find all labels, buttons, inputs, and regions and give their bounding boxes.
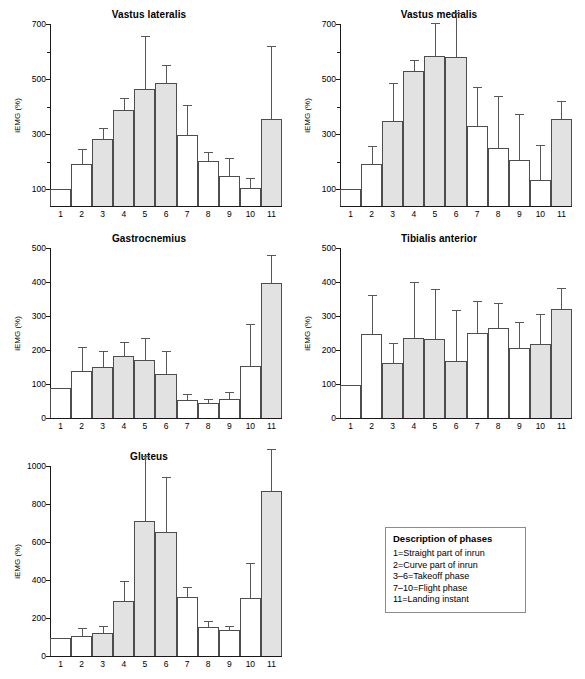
y-axis-tick-label: 600 <box>32 538 46 546</box>
y-axis-tick-label: 700 <box>322 20 336 28</box>
y-axis-tick-label: 400 <box>32 278 46 286</box>
x-axis-tick-label: 5 <box>143 421 148 431</box>
y-axis-tick-label: 100 <box>322 185 336 193</box>
plot-area <box>340 248 572 418</box>
x-axis-line <box>50 418 282 419</box>
x-axis-tick-label: 2 <box>369 421 374 431</box>
x-axis-tick-label: 10 <box>246 209 255 219</box>
error-bar <box>372 295 373 334</box>
error-bar <box>561 288 562 309</box>
legend-item: 1=Straight part of inrun <box>393 548 518 560</box>
bar <box>50 638 71 656</box>
error-bar-cap <box>78 347 87 348</box>
y-axis-minor-tick-mark <box>47 52 50 53</box>
error-bar-cap <box>473 301 482 302</box>
x-axis-tick-label: 5 <box>433 209 438 219</box>
x-axis-tick-label: 10 <box>536 209 545 219</box>
y-axis-minor-tick-mark <box>47 162 50 163</box>
y-axis-tick-mark <box>336 418 340 419</box>
error-bar-cap <box>536 314 545 315</box>
bar <box>113 110 134 206</box>
y-axis-tick-mark <box>336 350 340 351</box>
error-bar-cap <box>557 288 566 289</box>
y-axis-tick-mark <box>46 466 50 467</box>
y-axis-tick-labels: 100300500700 <box>20 24 46 206</box>
y-axis-tick-label: 300 <box>322 312 336 320</box>
bar <box>488 328 509 418</box>
error-bar <box>393 343 394 363</box>
bar <box>261 283 282 418</box>
error-bar-cap <box>515 114 524 115</box>
x-axis-tick-label: 8 <box>206 659 211 669</box>
error-bar <box>187 587 188 597</box>
error-bar <box>187 105 188 136</box>
error-bar <box>456 13 457 57</box>
y-axis-tick-label: 400 <box>322 278 336 286</box>
error-bar <box>82 149 83 164</box>
error-bar-cap <box>141 456 150 457</box>
y-axis-tick-mark <box>46 384 50 385</box>
x-axis-tick-label: 6 <box>454 209 459 219</box>
x-axis-tick-label: 6 <box>164 421 169 431</box>
bar <box>134 360 155 418</box>
x-axis-tick-label: 8 <box>206 421 211 431</box>
error-bar-cap <box>452 13 461 14</box>
x-axis-tick-label: 4 <box>121 209 126 219</box>
x-axis-tick-label: 1 <box>348 421 353 431</box>
error-bar <box>124 581 125 601</box>
y-axis-minor-tick-mark <box>337 107 340 108</box>
error-bar <box>103 351 104 367</box>
bar <box>50 388 71 418</box>
y-axis-minor-tick-mark <box>337 52 340 53</box>
error-bar-cap <box>431 289 440 290</box>
bar <box>219 399 240 418</box>
y-axis-tick-mark <box>46 504 50 505</box>
error-bar <box>250 178 251 188</box>
x-axis-tick-label: 3 <box>390 421 395 431</box>
plot-area <box>50 248 282 418</box>
x-axis-tick-label: 9 <box>517 209 522 219</box>
bar <box>219 630 240 656</box>
y-axis-line <box>50 466 51 656</box>
x-axis-tick-label: 1 <box>58 421 63 431</box>
error-bar <box>561 101 562 119</box>
x-axis-tick-label: 2 <box>369 209 374 219</box>
plot-area <box>50 24 282 206</box>
error-bar <box>372 146 373 164</box>
y-axis-tick-label: 300 <box>32 312 46 320</box>
error-bar-cap <box>246 563 255 564</box>
y-axis-tick-label: 100 <box>32 185 46 193</box>
y-axis-tick-mark <box>46 79 50 80</box>
x-axis-tick-label: 2 <box>79 421 84 431</box>
y-axis-minor-tick-mark <box>47 107 50 108</box>
error-bar-cap <box>368 146 377 147</box>
chart-plot-region: iEMG (%)01002003004005001234567891011 <box>10 248 288 432</box>
y-axis-tick-mark <box>46 618 50 619</box>
bar <box>240 598 261 656</box>
error-bar <box>145 456 146 522</box>
y-axis-line <box>50 24 51 206</box>
y-axis-tick-mark <box>336 316 340 317</box>
error-bar <box>519 114 520 160</box>
bar <box>340 385 361 418</box>
bar <box>113 356 134 418</box>
error-bar-cap <box>78 149 87 150</box>
bar <box>551 309 572 418</box>
error-bar-cap <box>410 60 419 61</box>
y-axis-tick-mark <box>336 24 340 25</box>
error-bar-cap <box>99 128 108 129</box>
y-axis-tick-mark <box>336 79 340 80</box>
error-bar-cap <box>120 342 129 343</box>
y-axis-tick-labels: 0100200300400500 <box>310 248 336 418</box>
y-axis-tick-label: 400 <box>32 576 46 584</box>
x-axis-tick-label: 5 <box>143 209 148 219</box>
y-axis-tick-label: 800 <box>32 500 46 508</box>
y-axis-tick-label: 200 <box>322 346 336 354</box>
y-axis-tick-mark <box>46 134 50 135</box>
legend-description-of-phases: Description of phases 1=Straight part of… <box>385 527 526 613</box>
x-axis-line <box>340 206 572 207</box>
x-axis-tick-label: 5 <box>433 421 438 431</box>
x-axis-tick-label: 9 <box>517 421 522 431</box>
y-axis-tick-label: 500 <box>322 244 336 252</box>
error-bar-cap <box>78 628 87 629</box>
